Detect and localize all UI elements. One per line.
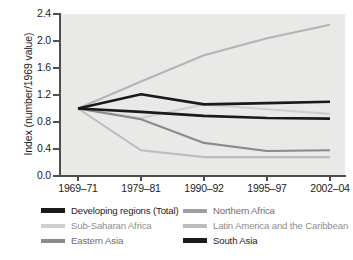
- legend-row: Eastern AsiaSouth Asia: [41, 235, 346, 250]
- legend-swatch-icon: [41, 224, 65, 228]
- legend-label: South Asia: [213, 235, 257, 246]
- series-line: [78, 94, 330, 108]
- legend-item: South Asia: [183, 235, 257, 246]
- chart-figure: 0.00.40.81.21.62.02.4 1969–711979–811990…: [0, 0, 353, 260]
- legend-swatch-icon: [41, 239, 65, 243]
- chart-legend: Developing regions (Total)Northern Afric…: [41, 205, 346, 250]
- legend-item: Northern Africa: [183, 205, 275, 216]
- legend-label: Northern Africa: [213, 205, 275, 216]
- legend-item: Developing regions (Total): [41, 205, 179, 216]
- legend-item: Eastern Asia: [41, 235, 123, 246]
- legend-swatch-icon: [41, 208, 65, 213]
- legend-label: Eastern Asia: [71, 235, 123, 246]
- legend-swatch-icon: [183, 209, 207, 213]
- legend-label: Latin America and the Caribbean: [213, 220, 348, 231]
- series-line: [78, 25, 330, 109]
- legend-item: Latin America and the Caribbean: [183, 220, 348, 231]
- legend-row: Developing regions (Total)Northern Afric…: [41, 205, 346, 220]
- legend-row: Sub-Saharan AfricaLatin America and the …: [41, 220, 346, 235]
- legend-label: Developing regions (Total): [71, 205, 179, 216]
- legend-label: Sub-Saharan Africa: [71, 220, 152, 231]
- legend-swatch-icon: [183, 224, 207, 228]
- legend-item: Sub-Saharan Africa: [41, 220, 152, 231]
- legend-swatch-icon: [183, 238, 207, 243]
